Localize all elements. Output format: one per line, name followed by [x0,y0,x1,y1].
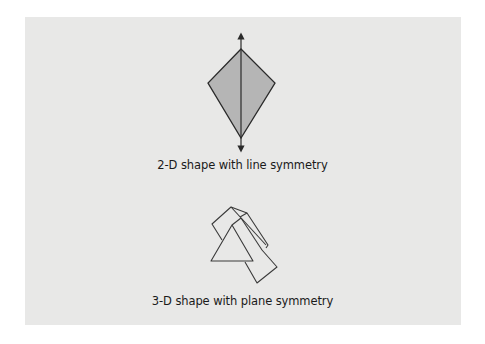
caption-3d-shape: 3-D shape with plane symmetry [0,294,485,308]
caption-2d-shape: 2-D shape with line symmetry [0,158,485,172]
triangular-prism-shape [211,207,277,283]
kite-shape [208,36,275,149]
triangle-face [211,225,253,261]
back-face [212,207,247,240]
symmetry-diagram [0,0,485,344]
back-face-edge [231,207,266,245]
ridge-edge [232,218,241,225]
